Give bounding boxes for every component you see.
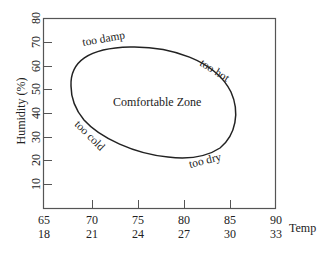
too-damp-label: too damp [81, 29, 126, 49]
svg-text:60: 60 [29, 60, 43, 72]
x-axis-label: Temp [289, 221, 316, 235]
plot-frame [44, 19, 276, 209]
svg-text:75: 75 [132, 213, 144, 227]
svg-text:21: 21 [86, 227, 98, 241]
svg-text:80: 80 [29, 12, 43, 24]
svg-text:24: 24 [132, 227, 144, 241]
svg-text:30: 30 [224, 227, 236, 241]
svg-text:80: 80 [178, 213, 190, 227]
svg-text:27: 27 [178, 227, 190, 241]
svg-text:33: 33 [270, 227, 282, 241]
svg-text:18: 18 [38, 227, 50, 241]
svg-text:40: 40 [29, 107, 43, 119]
x-axis-ticks [93, 200, 231, 208]
x-tick-labels-celsius: 18 21 24 27 30 33 [38, 227, 282, 241]
y-axis-ticks [44, 43, 53, 185]
too-dry-label: too dry [188, 150, 223, 171]
svg-text:65: 65 [38, 213, 50, 227]
comfort-zone-chart: 10 20 30 40 50 60 70 80 Humidity (%) 65 … [0, 0, 317, 257]
svg-text:20: 20 [29, 154, 43, 166]
svg-text:10: 10 [29, 178, 43, 190]
svg-text:90: 90 [270, 213, 282, 227]
svg-text:85: 85 [224, 213, 236, 227]
y-axis-label: Humidity (%) [14, 78, 28, 145]
comfortable-zone-label: Comfortable Zone [113, 95, 201, 109]
svg-text:50: 50 [29, 83, 43, 95]
too-hot-label: too hot [198, 57, 232, 85]
y-tick-labels: 10 20 30 40 50 60 70 80 [29, 12, 43, 190]
x-tick-labels-fahrenheit: 65 70 75 80 85 90 [38, 213, 282, 227]
svg-text:30: 30 [29, 131, 43, 143]
svg-text:70: 70 [29, 36, 43, 48]
svg-text:70: 70 [86, 213, 98, 227]
